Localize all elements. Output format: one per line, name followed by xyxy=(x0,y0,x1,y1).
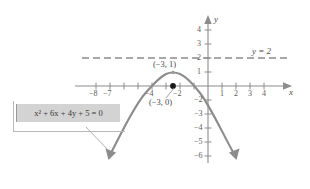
x-tick-label-2: 2 xyxy=(234,90,238,98)
dashed-line-label: y = 2 xyxy=(250,47,273,56)
y-axis xyxy=(204,15,211,163)
y-tick-label-2: 2 xyxy=(197,54,201,62)
y-tick-label-3: 3 xyxy=(197,40,201,48)
curve-arrow-left xyxy=(106,149,117,161)
x-tick-label-neg7: −7 xyxy=(103,90,112,98)
vertex-label: (−3, 1) xyxy=(152,60,177,69)
y-tick-label-neg4: −4 xyxy=(194,124,203,132)
y-tick-label-neg2: −2 xyxy=(194,96,203,104)
y-tick-label-neg6: −6 xyxy=(194,152,203,160)
x-axis-label: x xyxy=(289,88,293,97)
x-tick-label-3: 3 xyxy=(248,90,252,98)
y-tick-label-1: 1 xyxy=(197,68,201,76)
x-tick-label-neg2: −2 xyxy=(173,90,182,98)
figure-canvas: y x −8 −7 −4 −2 1 2 3 4 4 3 2 1 −2 −3 −4… xyxy=(0,0,310,189)
equation-callout-box: x² + 6x + 4y + 5 = 0 xyxy=(16,104,120,122)
y-tick-label-4: 4 xyxy=(197,26,201,34)
curve-arrow-right xyxy=(229,149,240,161)
x-tick-label-1: 1 xyxy=(220,90,224,98)
vertex-dot xyxy=(171,71,174,74)
y-tick-label-neg5: −5 xyxy=(194,138,203,146)
equation-text: x² + 6x + 4y + 5 = 0 xyxy=(34,108,102,118)
y-tick-label-neg3: −3 xyxy=(194,110,203,118)
leader-line-equation xyxy=(86,127,108,150)
intercept-label: (−3, 0) xyxy=(149,98,172,107)
x-tick-label-neg8: −8 xyxy=(89,90,98,98)
y-axis-label: y xyxy=(214,15,218,24)
x-tick-label-4: 4 xyxy=(262,90,266,98)
